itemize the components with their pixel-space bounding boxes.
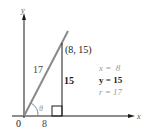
opposite-label: 15 [64, 75, 74, 86]
origin-label: 0 [16, 118, 21, 129]
hypotenuse-label: 17 [33, 64, 43, 75]
y-axis-label: y [20, 6, 25, 15]
angle-arc [31, 103, 38, 116]
hypotenuse-line [24, 31, 68, 116]
angle-label: θ [39, 104, 43, 113]
equation-r: r = 17 [99, 87, 123, 97]
x-axis-arrow-icon [128, 114, 135, 118]
equation-x: x = 8 [98, 63, 121, 73]
right-angle-marker [52, 106, 62, 116]
equation-y: y = 15 [99, 75, 123, 85]
x-axis-label: x [136, 112, 141, 121]
adjacent-label: 8 [42, 118, 47, 129]
right-triangle-diagram: y x 0 (8, 15) 17 15 8 θ x = 8 y = 15 r =… [0, 0, 145, 138]
point-label: (8, 15) [65, 44, 92, 56]
